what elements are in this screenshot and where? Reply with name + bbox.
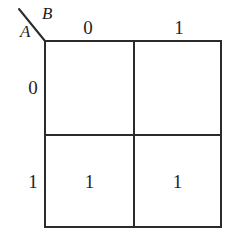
kmap-grid: 1 1 bbox=[44, 40, 222, 228]
column-header-1: 1 bbox=[164, 18, 194, 37]
kmap-cell-a1-b0: 1 bbox=[46, 134, 133, 226]
column-variable-label: B bbox=[42, 5, 52, 22]
kmap-cell-a0-b1 bbox=[133, 42, 220, 134]
karnaugh-map-figure: B A 0 1 0 1 1 1 bbox=[0, 0, 236, 248]
kmap-cell-a0-b0 bbox=[46, 42, 133, 134]
column-header-0: 0 bbox=[73, 18, 103, 37]
row-header-1: 1 bbox=[19, 172, 47, 191]
row-variable-label: A bbox=[20, 23, 30, 40]
kmap-cell-a1-b1: 1 bbox=[133, 134, 220, 226]
row-header-0: 0 bbox=[19, 78, 47, 97]
